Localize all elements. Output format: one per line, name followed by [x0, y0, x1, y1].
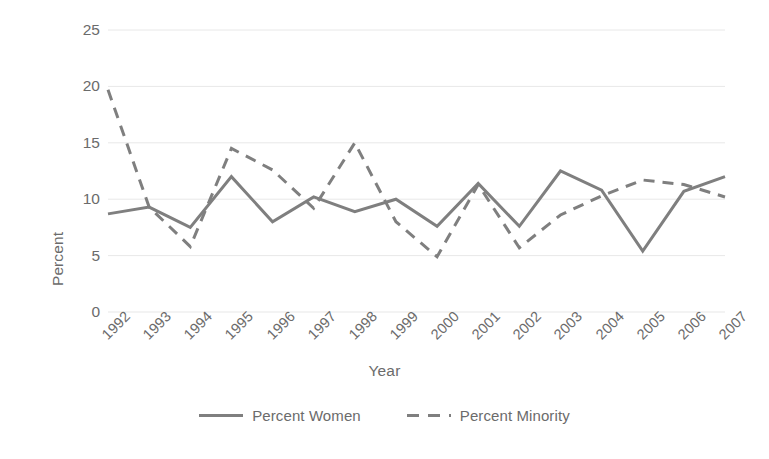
x-tick-label-1996: 1996 — [263, 308, 298, 343]
series-line-percent-minority — [108, 90, 725, 257]
y-tick-label-20: 20 — [56, 78, 100, 94]
y-tick-label-25: 25 — [56, 22, 100, 38]
legend-label: Percent Women — [252, 407, 361, 424]
x-tick-label-2007: 2007 — [716, 308, 751, 343]
x-tick-label-1999: 1999 — [387, 308, 422, 343]
x-axis-tick-labels: 1992199319941995199619971998199920002001… — [0, 302, 769, 362]
x-tick-label-1995: 1995 — [222, 308, 257, 343]
x-tick-label-2004: 2004 — [592, 308, 627, 343]
chart-legend: Percent WomenPercent Minority — [0, 407, 769, 424]
x-tick-label-2000: 2000 — [428, 308, 463, 343]
legend-swatch-solid-icon — [199, 414, 243, 417]
y-tick-label-5: 5 — [56, 248, 100, 264]
x-tick-label-1994: 1994 — [181, 308, 216, 343]
plot-svg — [108, 30, 725, 312]
x-tick-label-2002: 2002 — [510, 308, 545, 343]
x-tick-label-2006: 2006 — [674, 308, 709, 343]
legend-item-percent-minority[interactable]: Percent Minority — [407, 407, 570, 424]
x-tick-label-2001: 2001 — [469, 308, 504, 343]
x-tick-label-2005: 2005 — [633, 308, 668, 343]
y-tick-label-15: 15 — [56, 135, 100, 151]
x-tick-label-2003: 2003 — [551, 308, 586, 343]
x-tick-label-1997: 1997 — [304, 308, 339, 343]
legend-swatch-dashed-icon — [407, 414, 451, 417]
x-tick-label-1992: 1992 — [99, 308, 134, 343]
y-tick-label-10: 10 — [56, 191, 100, 207]
x-axis-title: Year — [0, 362, 769, 380]
legend-item-percent-women[interactable]: Percent Women — [199, 407, 361, 424]
line-chart: Percent 0510152025 199219931994199519961… — [0, 0, 769, 459]
plot-area — [108, 30, 725, 312]
x-tick-label-1993: 1993 — [140, 308, 175, 343]
legend-label: Percent Minority — [460, 407, 570, 424]
x-tick-label-1998: 1998 — [345, 308, 380, 343]
y-axis-tick-labels: 0510152025 — [56, 0, 100, 459]
